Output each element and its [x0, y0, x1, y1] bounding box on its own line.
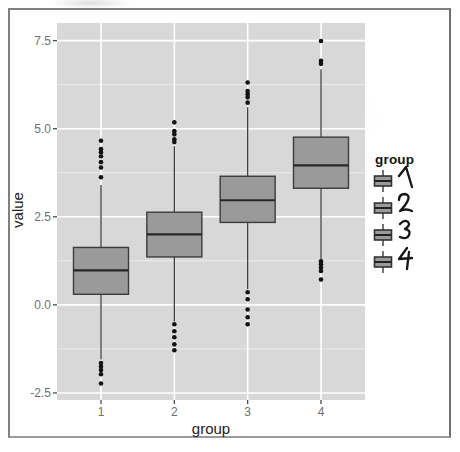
outlier-point-group-2 [172, 342, 177, 347]
outlier-point-group-3 [245, 297, 250, 302]
y-tick-label: 0.0 [13, 298, 51, 312]
x-tick-label: 2 [159, 405, 189, 419]
x-tick-label: 1 [86, 405, 116, 419]
outlier-point-group-1 [99, 372, 104, 377]
outlier-point-group-2 [172, 322, 177, 327]
boxplot-key-icon [372, 222, 394, 248]
outlier-point-group-4 [319, 58, 324, 63]
outlier-point-group-3 [245, 89, 250, 94]
outlier-point-group-4 [319, 39, 324, 44]
x-axis-title: group [192, 420, 230, 437]
y-axis-title: value [9, 192, 26, 228]
outlier-point-group-1 [99, 175, 104, 180]
x-tick-label: 3 [233, 405, 263, 419]
boxplot-key-icon [372, 249, 394, 275]
y-tick-label: -2.5 [13, 386, 51, 400]
y-tick-label: 7.5 [13, 34, 51, 48]
outlier-point-group-1 [99, 138, 104, 143]
outlier-point-group-2 [172, 137, 177, 142]
legend-label-2-handwritten-icon [395, 191, 417, 217]
outlier-point-group-4 [319, 269, 324, 274]
plot-panel [57, 23, 365, 400]
outlier-point-group-1 [99, 160, 104, 165]
outlier-point-group-3 [245, 307, 250, 312]
boxplot-key-icon [372, 195, 394, 221]
outlier-point-group-2 [172, 120, 177, 125]
outlier-point-group-4 [319, 277, 324, 282]
outlier-point-group-3 [245, 80, 250, 85]
outlier-point-group-3 [245, 290, 250, 295]
y-tick-label: 5.0 [13, 122, 51, 136]
outlier-point-group-2 [172, 335, 177, 340]
outlier-point-group-1 [99, 368, 104, 373]
outlier-point-group-2 [172, 129, 177, 134]
scanned-boxplot-figure: 7.55.02.50.0-2.51234 value group group 1 [0, 0, 460, 452]
x-tick-label: 4 [306, 405, 336, 419]
legend-label-3-handwritten-icon [395, 218, 417, 244]
outlier-point-group-1 [99, 147, 104, 152]
outlier-point-group-3 [245, 315, 250, 320]
box-group-4 [294, 137, 349, 188]
outlier-point-group-3 [245, 322, 250, 327]
outlier-point-group-3 [245, 100, 250, 105]
legend: group 1 2 [372, 152, 432, 275]
outlier-point-group-2 [172, 348, 177, 353]
outlier-point-group-1 [99, 381, 104, 386]
legend-item-4: 4 [372, 248, 432, 275]
outlier-point-group-1 [99, 165, 104, 170]
legend-label-4-handwritten-icon [395, 245, 417, 271]
boxplot-key-icon [372, 168, 394, 194]
legend-label-1-handwritten-icon [395, 164, 417, 190]
outlier-point-group-2 [172, 329, 177, 334]
